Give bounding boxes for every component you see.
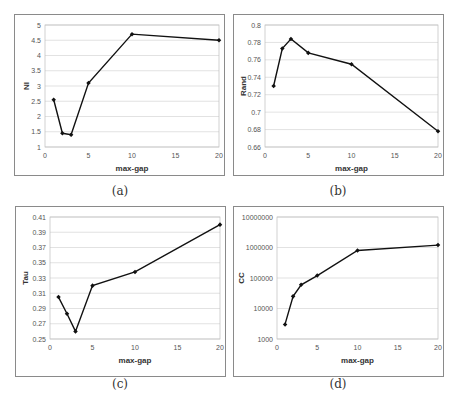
caption-c: (c) (100, 377, 140, 391)
svg-text:4.5: 4.5 (31, 37, 41, 44)
chart-b: 0.660.680.70.720.740.760.780.805101520ma… (234, 15, 445, 177)
y-axis-ticks: 11.522.533.544.55 (31, 22, 41, 151)
svg-text:5: 5 (37, 22, 41, 29)
data-point (69, 133, 74, 138)
svg-text:100000: 100000 (250, 275, 273, 282)
svg-text:0.7: 0.7 (251, 109, 261, 116)
chart-panel-a: 11.522.533.544.5505101520max-gapNI (14, 14, 225, 176)
svg-text:10: 10 (131, 344, 139, 351)
svg-text:5: 5 (87, 152, 91, 159)
svg-text:15: 15 (172, 152, 180, 159)
y-axis-ticks: 0.660.680.70.720.740.760.780.8 (247, 22, 261, 151)
svg-text:0: 0 (48, 344, 52, 351)
svg-text:0.8: 0.8 (251, 22, 261, 29)
svg-text:0.27: 0.27 (32, 320, 46, 327)
data-markers (283, 243, 440, 327)
y-axis-label: Rand (239, 76, 248, 96)
svg-text:15: 15 (174, 344, 182, 351)
caption-d: (d) (318, 377, 358, 391)
gridlines (265, 25, 438, 147)
data-point (90, 283, 95, 288)
chart-panel-b: 0.660.680.70.720.740.760.780.805101520ma… (233, 14, 444, 176)
svg-text:20: 20 (216, 344, 224, 351)
svg-text:0: 0 (275, 344, 279, 351)
gridlines (277, 217, 438, 339)
data-point (65, 312, 70, 317)
svg-text:20: 20 (434, 344, 442, 351)
chart-c: 0.250.270.290.310.330.350.370.390.410510… (16, 207, 227, 378)
gridlines (45, 25, 219, 147)
data-line (285, 245, 438, 324)
svg-text:0.76: 0.76 (247, 56, 261, 63)
svg-text:0.72: 0.72 (247, 91, 261, 98)
y-axis-ticks: 0.250.270.290.310.330.350.370.390.41 (32, 214, 46, 343)
svg-text:0.66: 0.66 (247, 144, 261, 151)
data-line (54, 34, 219, 135)
svg-text:15: 15 (394, 344, 402, 351)
y-axis-label: Tau (21, 271, 30, 285)
svg-text:0.35: 0.35 (32, 259, 46, 266)
svg-text:0.41: 0.41 (32, 214, 46, 221)
svg-text:20: 20 (434, 152, 442, 159)
y-axis-label: CC (237, 272, 246, 284)
svg-text:0.29: 0.29 (32, 305, 46, 312)
x-axis-label: max-gap (341, 356, 374, 365)
x-axis-ticks: 05101520 (263, 152, 442, 159)
plot-area (265, 25, 438, 147)
svg-text:10: 10 (128, 152, 136, 159)
y-axis-ticks: 100010000100000100000010000000 (242, 214, 273, 343)
data-point (56, 295, 61, 300)
svg-text:3: 3 (37, 83, 41, 90)
chart-d: 10001000010000010000001000000005101520ma… (234, 207, 445, 378)
svg-text:0.68: 0.68 (247, 126, 261, 133)
data-point (271, 84, 276, 89)
svg-text:5: 5 (306, 152, 310, 159)
svg-text:0.33: 0.33 (32, 275, 46, 282)
svg-text:0: 0 (43, 152, 47, 159)
svg-text:20: 20 (215, 152, 223, 159)
svg-text:4: 4 (37, 52, 41, 59)
svg-text:10000: 10000 (254, 305, 274, 312)
x-axis-ticks: 05101520 (275, 344, 442, 351)
svg-text:1.5: 1.5 (31, 128, 41, 135)
gridlines (50, 217, 220, 339)
x-axis-label: max-gap (119, 356, 152, 365)
svg-text:0.39: 0.39 (32, 229, 46, 236)
svg-text:0.74: 0.74 (247, 74, 261, 81)
data-markers (271, 37, 440, 134)
svg-text:5: 5 (315, 344, 319, 351)
x-axis-label: max-gap (116, 164, 149, 173)
x-axis-ticks: 05101520 (43, 152, 223, 159)
svg-text:1000000: 1000000 (246, 244, 273, 251)
svg-text:10: 10 (354, 344, 362, 351)
caption-b: (b) (318, 184, 358, 198)
data-point (73, 329, 78, 334)
data-point (217, 38, 222, 43)
svg-text:1000: 1000 (257, 336, 273, 343)
svg-text:10000000: 10000000 (242, 214, 273, 221)
svg-text:0.37: 0.37 (32, 244, 46, 251)
svg-text:0.31: 0.31 (32, 290, 46, 297)
y-axis-label: NI (22, 82, 31, 90)
svg-text:2.5: 2.5 (31, 98, 41, 105)
x-axis-label: max-gap (335, 164, 368, 173)
data-line (274, 39, 438, 131)
svg-text:10: 10 (348, 152, 356, 159)
data-point (436, 243, 441, 248)
svg-text:3.5: 3.5 (31, 67, 41, 74)
svg-text:0.25: 0.25 (32, 336, 46, 343)
data-markers (51, 32, 221, 137)
svg-text:15: 15 (391, 152, 399, 159)
svg-text:1: 1 (37, 144, 41, 151)
chart-panel-c: 0.250.270.290.310.330.350.370.390.410510… (15, 206, 226, 377)
chart-a: 11.522.533.544.5505101520max-gapNI (15, 15, 226, 177)
svg-text:0.78: 0.78 (247, 39, 261, 46)
svg-text:5: 5 (91, 344, 95, 351)
svg-text:2: 2 (37, 113, 41, 120)
chart-panel-d: 10001000010000010000001000000005101520ma… (233, 206, 444, 377)
x-axis-ticks: 05101520 (48, 344, 224, 351)
caption-a: (a) (100, 184, 140, 198)
svg-text:0: 0 (263, 152, 267, 159)
data-point (283, 322, 288, 327)
